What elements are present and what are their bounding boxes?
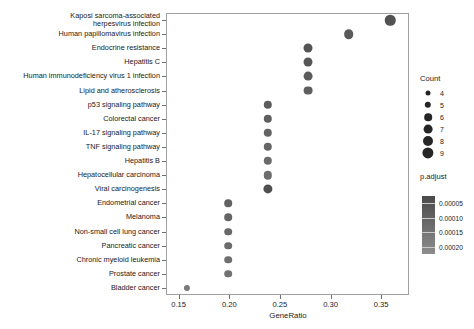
x-axis-tick-label: 0.35 [374, 300, 389, 309]
y-axis-tick-mark [162, 288, 166, 289]
padjust-tick-mark [422, 232, 435, 233]
padjust-tick-mark [422, 203, 435, 204]
count-legend-marker [424, 113, 432, 121]
y-axis-tick-label: p53 signaling pathway [0, 100, 160, 108]
y-axis-tick-mark [162, 175, 166, 176]
data-point [224, 270, 232, 278]
y-axis-tick-label: Human immunodeficiency virus 1 infection [0, 72, 160, 80]
x-axis-title: GeneRatio [269, 311, 306, 320]
y-axis-tick-label: Colorectal cancer [0, 115, 160, 123]
padjust-tick-mark [422, 247, 435, 248]
count-legend-label: 9 [440, 150, 444, 157]
y-axis-tick-label: IL-17 signaling pathway [0, 129, 160, 137]
y-axis-tick-mark [162, 232, 166, 233]
count-legend-row: 6 [420, 111, 440, 123]
count-legend-row: 8 [420, 135, 440, 147]
y-axis-tick-label: Pancreatic cancer [0, 241, 160, 249]
count-legend-marker [424, 125, 433, 134]
y-axis-tick-label: Bladder cancer [0, 284, 160, 292]
y-axis-tick-mark [162, 133, 166, 134]
data-point [385, 15, 396, 26]
data-point [224, 256, 232, 264]
y-axis-tick-mark [162, 48, 166, 49]
y-axis-tick-mark [162, 274, 166, 275]
y-axis-tick-mark [162, 62, 166, 63]
x-axis-tick-label: 0.25 [273, 300, 288, 309]
count-legend-row: 7 [420, 123, 440, 135]
y-axis-tick-mark [162, 246, 166, 247]
count-legend-row: 4 [420, 87, 440, 99]
y-axis-tick-label: Melanoma [0, 213, 160, 221]
plot-panel [166, 13, 409, 295]
data-point [224, 228, 232, 236]
y-axis-tick-mark [162, 20, 166, 21]
data-point [224, 214, 232, 222]
count-legend-entries: 456789 [420, 87, 440, 159]
y-axis-tick-label: Lipid and atherosclerosis [0, 86, 160, 94]
y-axis-tick-mark [162, 147, 166, 148]
padjust-legend-title: p.adjust [420, 172, 447, 181]
dotplot-figure: Kaposi sarcoma-associated herpesvirus in… [0, 0, 474, 329]
data-point [224, 242, 232, 250]
y-axis-tick-mark [162, 76, 166, 77]
count-legend-label: 7 [440, 126, 444, 133]
padjust-tick-label: 0.00020 [439, 243, 463, 250]
y-axis-tick-mark [162, 91, 166, 92]
padjust-tick-label: 0.00010 [439, 214, 463, 221]
y-axis-tick-mark [162, 189, 166, 190]
data-point [304, 86, 313, 95]
count-legend-label: 6 [440, 114, 444, 121]
count-legend-title: Count [420, 74, 440, 83]
y-axis-tick-mark [162, 105, 166, 106]
count-legend-marker [425, 102, 431, 108]
y-axis-tick-mark [162, 217, 166, 218]
y-axis-tick-label: Viral carcinogenesis [0, 185, 160, 193]
padjust-tick-mark [422, 218, 435, 219]
padjust-tick-label: 0.00005 [439, 200, 463, 207]
x-axis-tick-mark [331, 295, 332, 299]
y-axis-tick-mark [162, 260, 166, 261]
count-legend-row: 9 [420, 147, 440, 159]
x-axis-tick-label: 0.20 [222, 300, 237, 309]
count-legend-label: 4 [440, 90, 444, 97]
y-axis-tick-mark [162, 34, 166, 35]
y-axis-tick-mark [162, 119, 166, 120]
y-axis-labels: Kaposi sarcoma-associated herpesvirus in… [0, 13, 160, 295]
data-point [344, 29, 354, 39]
y-axis-tick-label: TNF signaling pathway [0, 143, 160, 151]
y-axis-tick-label: Kaposi sarcoma-associated herpesvirus in… [0, 12, 160, 29]
y-axis-tick-mark [162, 161, 166, 162]
y-axis-tick-label: Hepatitis B [0, 157, 160, 165]
y-axis-tick-label: Non-small cell lung cancer [0, 227, 160, 235]
y-axis-tick-label: Prostate cancer [0, 270, 160, 278]
data-point [304, 44, 313, 53]
y-axis-tick-label: Hepatocellular carcinoma [0, 171, 160, 179]
y-axis-tick-label: Hepatitis C [0, 58, 160, 66]
y-axis-tick-label: Chronic myeloid leukemia [0, 256, 160, 264]
data-point [224, 200, 232, 208]
padjust-tick-label: 0.00015 [439, 229, 463, 236]
padjust-legend: p.adjust 0.000050.000100.000150.00020 [420, 172, 447, 267]
count-legend-row: 5 [420, 99, 440, 111]
x-axis-tick-mark [381, 295, 382, 299]
y-axis-tick-mark [162, 203, 166, 204]
count-legend-label: 8 [440, 138, 444, 145]
x-axis-tick-mark [229, 295, 230, 299]
y-axis-tick-label: Endocrine resistance [0, 44, 160, 52]
count-legend-label: 5 [440, 102, 444, 109]
x-axis-tick-mark [179, 295, 180, 299]
count-legend-marker [422, 147, 433, 158]
count-legend-marker [426, 91, 431, 96]
data-point [304, 58, 313, 67]
padjust-colorbar-wrap: 0.000050.000100.000150.00020 [420, 185, 447, 267]
x-axis-tick-label: 0.30 [323, 300, 338, 309]
count-legend-marker [423, 136, 433, 146]
x-axis-tick-label: 0.15 [171, 300, 186, 309]
y-axis-tick-label: Human papillomavirus infection [0, 30, 160, 38]
count-legend: Count 456789 [420, 74, 440, 159]
padjust-colorbar [422, 196, 435, 254]
y-axis-tick-label: Endometrial cancer [0, 199, 160, 207]
x-axis-tick-mark [280, 295, 281, 299]
data-point [304, 72, 313, 81]
